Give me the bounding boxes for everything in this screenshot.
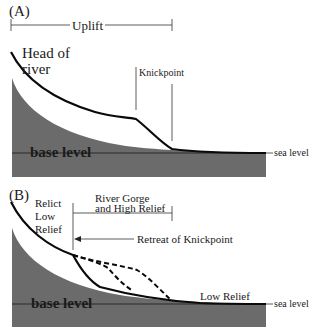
panel-b-label: (B): [9, 188, 29, 203]
relict-label-line3: Relief: [35, 224, 62, 235]
head-of-river-label-line2: river: [22, 62, 50, 77]
base-level-label-a: base level: [30, 145, 91, 160]
former-profile-2: [73, 255, 133, 291]
knickpoint-label: Knickpoint: [139, 68, 184, 78]
low-relief-label: Low Relief: [200, 291, 250, 302]
relict-label-line2: Low: [35, 211, 55, 222]
head-of-river-label-line1: Head of: [22, 46, 70, 61]
panel-a-label: (A): [9, 4, 30, 19]
sea-level-label-b: sea level: [274, 299, 309, 309]
uplift-label: Uplift: [72, 19, 103, 32]
retreat-arrow-icon: [74, 236, 81, 242]
base-level-label-b: base level: [31, 296, 92, 311]
relict-label-line1: Relict: [35, 198, 61, 209]
sea-level-label-a: sea level: [274, 148, 309, 158]
retreat-label: Retreat of Knickpoint: [137, 234, 233, 245]
gorge-label-line2: and High Relief: [95, 203, 165, 214]
